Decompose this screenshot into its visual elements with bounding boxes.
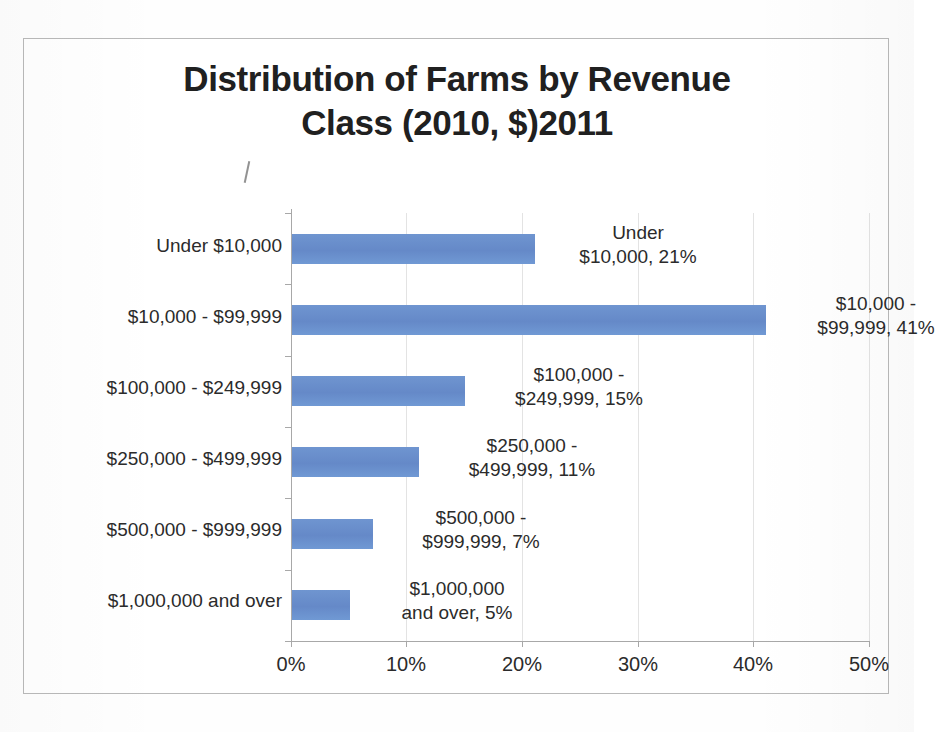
gridline-50: [869, 213, 870, 641]
bar-100000-249999[interactable]: [292, 376, 465, 406]
data-label-250000-499999: $250,000 - $499,999, 11%: [427, 434, 637, 482]
x-axis-label-30: 30%: [603, 653, 673, 676]
data-label-10000-99999: $10,000 - $99,999, 41%: [776, 292, 939, 340]
y-axis-label-1: $10,000 - $99,999: [22, 306, 282, 328]
x-axis-label-50: 50%: [834, 653, 904, 676]
chart-title-line-2: Class (2010, $)2011: [24, 101, 890, 145]
y-axis-label-0: Under $10,000: [22, 235, 282, 257]
data-label-100000-249999: $100,000 - $249,999, 15%: [474, 363, 684, 411]
y-tick-0: [285, 213, 291, 214]
y-axis-label-3: $250,000 - $499,999: [22, 448, 282, 470]
y-tick-1: [285, 284, 291, 285]
x-axis-label-10: 10%: [371, 653, 441, 676]
bar-500000-999999[interactable]: [292, 519, 373, 549]
y-tick-2: [285, 356, 291, 357]
bar-10000-99999[interactable]: [292, 305, 766, 335]
x-axis-label-0: 0%: [256, 653, 326, 676]
plot-area: Under $10,000, 21% $10,000 - $99,999, 41…: [291, 213, 869, 641]
y-axis-label-5: $1,000,000 and over: [22, 590, 282, 612]
x-axis-label-40: 40%: [718, 653, 788, 676]
x-axis-line: [291, 641, 869, 642]
bar-under-10000[interactable]: [292, 234, 535, 264]
x-tick-10: [406, 641, 407, 647]
y-axis-line: [291, 209, 292, 645]
y-axis-label-2: $100,000 - $249,999: [22, 377, 282, 399]
y-axis-category-labels: Under $10,000 $10,000 - $99,999 $100,000…: [24, 213, 282, 641]
data-label-under-10000: Under $10,000, 21%: [543, 221, 733, 269]
x-axis-label-20: 20%: [487, 653, 557, 676]
stray-pen-mark: [244, 161, 251, 183]
x-tick-50: [869, 641, 870, 647]
bar-250000-499999[interactable]: [292, 447, 419, 477]
data-label-500000-999999: $500,000 - $999,999, 7%: [381, 506, 581, 554]
y-tick-4: [285, 498, 291, 499]
x-tick-0: [291, 641, 292, 647]
x-tick-30: [638, 641, 639, 647]
chart-title-line-1: Distribution of Farms by Revenue: [24, 57, 890, 101]
gridline-40: [753, 213, 754, 641]
y-tick-5: [285, 570, 291, 571]
bar-1000000-and-over[interactable]: [292, 590, 350, 620]
chart-frame: Distribution of Farms by Revenue Class (…: [23, 38, 889, 694]
data-label-1000000-and-over: $1,000,000 and over, 5%: [357, 577, 557, 625]
chart-title: Distribution of Farms by Revenue Class (…: [24, 57, 890, 145]
x-tick-20: [522, 641, 523, 647]
y-axis-label-4: $500,000 - $999,999: [22, 519, 282, 541]
x-tick-40: [753, 641, 754, 647]
y-tick-3: [285, 427, 291, 428]
gridline-30: [638, 213, 639, 641]
